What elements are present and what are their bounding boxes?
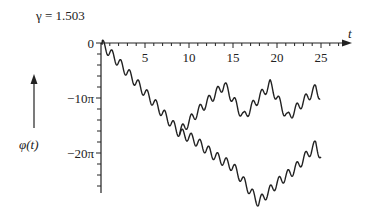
x-tick-label: 10 [183,50,196,65]
y-axis-label: φ(t) [19,137,38,152]
curves [101,40,321,206]
curve-upper-branch [179,80,320,136]
y-tick-label: −10π [67,91,94,106]
curve-lower-branch [179,129,321,206]
arrow-up-icon [31,74,38,84]
x-tick-label: 20 [271,50,284,65]
x-tick-label: 5 [142,50,149,65]
x-tick-label: 15 [227,50,240,65]
y-tick-label: 0 [88,36,95,51]
x-axis-label: t [348,26,352,41]
y-tick-label: −20π [67,146,94,161]
chart-title: γ = 1.503 [35,8,85,23]
x-tick-label: 25 [315,50,328,65]
curve-common-descent [101,40,179,136]
phase-chart: γ = 1.503 φ(t) 5101520250−10π−20π t [0,0,369,213]
